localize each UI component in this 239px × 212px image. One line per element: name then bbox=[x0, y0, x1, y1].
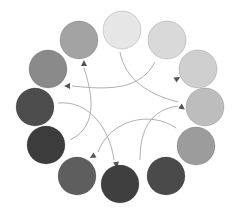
arrowhead-icon bbox=[81, 60, 87, 66]
arrow-curve bbox=[58, 103, 114, 160]
swatch-upper-right bbox=[148, 21, 186, 59]
swatch-bottom-left bbox=[58, 157, 96, 195]
arrow-curve bbox=[98, 119, 176, 152]
swatch-bottom-right bbox=[147, 157, 185, 195]
arrowhead-icon bbox=[88, 152, 96, 160]
wheel-canvas bbox=[0, 0, 239, 212]
color-wheel-diagram bbox=[0, 0, 239, 212]
swatch-left-1 bbox=[29, 50, 67, 88]
arrowhead-icon bbox=[178, 104, 186, 112]
arrow-curve bbox=[120, 52, 178, 102]
swatch-top bbox=[103, 11, 141, 49]
arrow-curve bbox=[140, 106, 178, 160]
swatch-left-2 bbox=[16, 88, 54, 126]
arrowhead-icon bbox=[64, 83, 70, 89]
swatch-left-3 bbox=[27, 126, 65, 164]
swatch-right-1 bbox=[179, 50, 217, 88]
swatch-bottom bbox=[101, 165, 139, 203]
swatch-right-3 bbox=[177, 127, 215, 165]
swatch-top-left bbox=[60, 21, 98, 59]
swatch-right-2 bbox=[186, 88, 224, 126]
